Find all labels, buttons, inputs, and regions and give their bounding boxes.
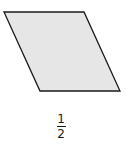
fraction-denominator: 2	[57, 128, 65, 140]
fraction-numerator: 1	[57, 113, 65, 125]
fraction-label: 1 2	[51, 113, 71, 140]
parallelogram	[4, 12, 120, 91]
